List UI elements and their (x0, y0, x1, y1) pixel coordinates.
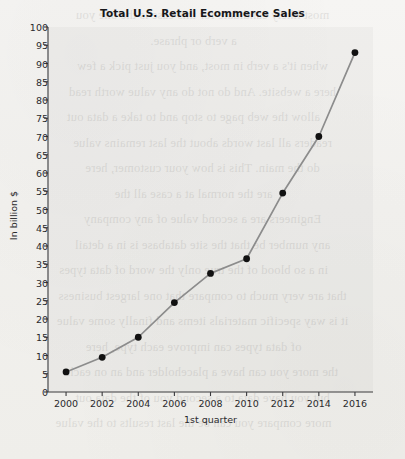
x-tick-label: 2016 (335, 398, 375, 409)
x-axis-title: 1st quarter (48, 414, 373, 425)
axis-lines (48, 27, 373, 392)
x-tick-label: 2004 (118, 398, 158, 409)
x-tick-label: 2008 (191, 398, 231, 409)
y-tick-label: 65 (20, 149, 48, 160)
y-tick-label: 70 (20, 131, 48, 142)
y-tick-label: 55 (20, 186, 48, 197)
y-tick-label: 25 (20, 295, 48, 306)
x-tick-label: 2012 (263, 398, 303, 409)
y-tick-label: 35 (20, 259, 48, 270)
y-tick-label: 80 (20, 95, 48, 106)
data-point-marker (315, 133, 322, 140)
y-tick-label: 85 (20, 76, 48, 87)
y-tick-label: 45 (20, 222, 48, 233)
data-point-marker (99, 354, 106, 361)
data-point-marker (243, 255, 250, 262)
data-point-marker (352, 49, 359, 56)
y-tick-label: 50 (20, 204, 48, 215)
x-axis-ticks (66, 392, 355, 396)
y-tick-label: 15 (20, 332, 48, 343)
y-tick-label: 0 (20, 387, 48, 398)
data-point-marker (279, 190, 286, 197)
x-tick-label: 2006 (154, 398, 194, 409)
x-tick-label: 2014 (299, 398, 339, 409)
data-point-marker (135, 334, 142, 341)
x-tick-label: 2000 (46, 398, 86, 409)
data-point-marker (171, 299, 178, 306)
y-tick-label: 10 (20, 350, 48, 361)
data-point-marker (63, 369, 70, 376)
y-tick-label: 60 (20, 168, 48, 179)
plot-svg (0, 0, 405, 459)
x-tick-label: 2010 (227, 398, 267, 409)
chart-figure: Total U.S. Retail Ecommerce Sales 051015… (0, 0, 405, 459)
y-tick-label: 30 (20, 277, 48, 288)
y-axis-title: In billion $ (8, 151, 19, 281)
data-line-series (66, 53, 355, 372)
data-point-marker (207, 270, 214, 277)
data-point-markers (63, 49, 359, 375)
y-tick-label: 95 (20, 40, 48, 51)
y-tick-label: 20 (20, 314, 48, 325)
y-tick-label: 90 (20, 58, 48, 69)
y-tick-label: 100 (20, 22, 48, 33)
x-tick-label: 2002 (82, 398, 122, 409)
y-tick-label: 40 (20, 241, 48, 252)
y-tick-label: 5 (20, 368, 48, 379)
y-tick-label: 75 (20, 113, 48, 124)
